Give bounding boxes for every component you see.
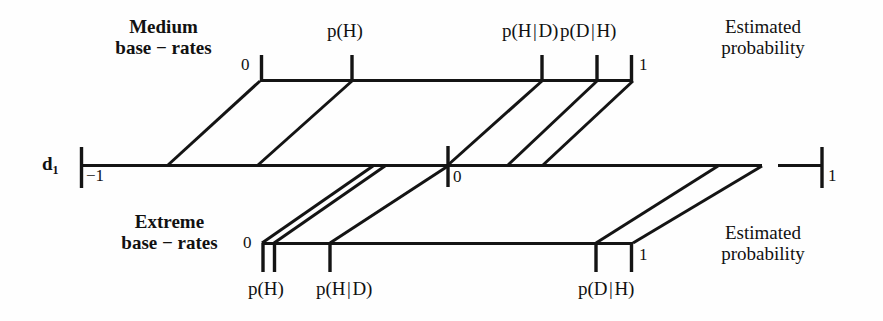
top-label-p-h-given-d-right: D) [538,20,558,41]
probability-scale-diagram: Medium base − rates 0 1 p(H) p(H|D) p(D|… [0,0,883,321]
bottom-one-label: 1 [639,245,648,264]
top-label-p-h-given-d-left: p(H [502,20,532,41]
top-label-p-h: p(H) [327,20,363,41]
bottom-corner-label-line1: Extreme [92,211,247,232]
connector-top-p-d-given-h [508,81,597,165]
top-right-label: Estimated probability [688,16,838,59]
bottom-zero-label: 0 [243,233,252,252]
bottom-label-p-d-given-h: p(D|H) [578,278,634,299]
top-label-p-h-given-d: p(H|D) [502,20,558,41]
bottom-label-p-h-given-d-left: p(H [316,278,346,299]
bottom-right-label-line1: Estimated [688,222,838,243]
top-corner-label-line1: Medium [86,16,241,37]
bottom-label-p-h-given-d-right: D) [352,278,372,299]
top-corner-label-line2: base − rates [86,37,241,58]
top-one-label: 1 [639,55,648,74]
connector-bottom-p-h [274,166,385,243]
bottom-axis-group [262,243,633,272]
top-label-p-d-given-h-right: H) [596,20,616,41]
top-to-middle-connectors [168,81,633,165]
middle-axis-variable-subscript: 1 [53,163,59,177]
top-label-p-h-text: p(H) [327,20,363,41]
connector-top-zero [168,81,260,165]
bottom-label-p-h-text: p(H) [248,278,284,299]
top-label-p-d-given-h-left: p(D [560,20,590,41]
bottom-right-label-line2: probability [688,243,838,264]
middle-zero-label: 0 [453,167,462,186]
middle-minus-one-label: −1 [86,166,104,185]
middle-axis-variable-name: d [42,153,53,174]
top-axis-group [260,55,633,81]
top-right-label-line1: Estimated [688,16,838,37]
bottom-corner-label: Extreme base − rates [92,211,247,254]
top-label-p-d-given-h: p(D|H) [560,20,616,41]
connector-bottom-zero [262,166,373,243]
top-corner-label: Medium base − rates [86,16,241,59]
bottom-label-p-h-given-d: p(H|D) [316,278,372,299]
middle-axis-variable-label: d1 [42,153,59,177]
top-right-label-line2: probability [688,37,838,58]
middle-one-label: 1 [828,166,837,185]
bottom-to-middle-connectors [262,166,762,243]
bottom-label-p-d-given-h-right: H) [614,278,634,299]
middle-axis-group [80,146,823,188]
bottom-corner-label-line2: base − rates [92,232,247,253]
connector-top-p-h [258,81,352,165]
bottom-label-p-h: p(H) [248,278,284,299]
connector-bottom-p-h-given-d [330,166,448,243]
connector-top-one [543,81,633,165]
top-zero-label: 0 [241,55,250,74]
bottom-label-p-d-given-h-left: p(D [578,278,608,299]
connector-top-p-h-given-d [448,81,542,165]
bottom-right-label: Estimated probability [688,222,838,265]
